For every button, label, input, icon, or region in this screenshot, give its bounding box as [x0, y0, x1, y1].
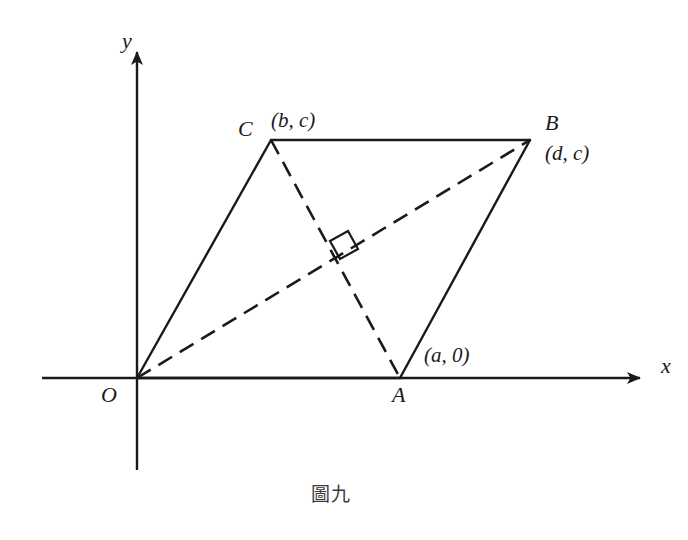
diagonal-CA [271, 140, 400, 378]
geometry-canvas [0, 0, 688, 540]
y-axis-label: y [122, 30, 132, 52]
coordinate-label-C: (b, c) [271, 110, 315, 131]
coordinate-label-B: (d, c) [545, 143, 589, 164]
vertex-label-A: A [392, 384, 405, 406]
coordinate-label-A: (a, 0) [424, 345, 470, 366]
x-axis-label: x [661, 355, 671, 377]
side-OC [137, 140, 271, 378]
vertex-label-B: B [545, 112, 558, 134]
vertex-label-O: O [101, 384, 117, 406]
figure-caption: 圖九 [311, 485, 351, 504]
diagonal-OB [137, 140, 530, 378]
figure-container: y x O A B C (b, c) (d, c) (a, 0) 圖九 [0, 0, 688, 540]
vertex-label-C: C [238, 118, 253, 140]
